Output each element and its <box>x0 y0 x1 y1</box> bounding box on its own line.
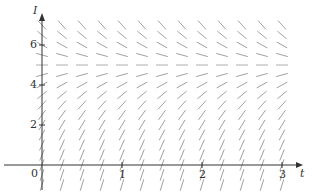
slope-segment <box>118 110 125 120</box>
slope-segment <box>97 31 106 39</box>
origin-label: 0 <box>31 168 38 179</box>
slope-segment <box>220 179 223 190</box>
slope-segment <box>60 169 64 180</box>
slope-segment <box>156 73 168 76</box>
slope-segment <box>97 82 108 88</box>
slope-segment <box>119 130 125 141</box>
axes <box>4 13 303 190</box>
slope-segment <box>177 91 186 99</box>
slope-segment <box>100 179 103 190</box>
slope-segment <box>197 91 206 99</box>
slope-segment <box>160 149 165 160</box>
slope-segment <box>157 31 166 39</box>
slope-segment <box>180 149 185 160</box>
slope-segment <box>159 120 165 130</box>
slope-segment <box>177 82 188 88</box>
slope-segment <box>277 42 288 48</box>
slope-segment <box>197 31 206 39</box>
slope-segment <box>178 21 186 30</box>
slope-segment <box>156 53 168 56</box>
slope-segment <box>60 140 65 151</box>
slope-segment <box>140 149 145 160</box>
slope-segment <box>77 42 88 48</box>
slope-segment <box>80 179 83 190</box>
slope-segment <box>116 53 128 56</box>
x-tick-label-3: 3 <box>279 169 286 180</box>
slope-segment <box>280 149 285 160</box>
slope-segment <box>199 120 205 130</box>
slope-segment <box>218 101 226 110</box>
slope-segment <box>260 140 265 151</box>
slope-segment <box>238 21 246 30</box>
slope-segment <box>160 140 165 151</box>
y-tick-label-6: 6 <box>30 39 37 50</box>
slope-segment <box>218 110 225 120</box>
slope-segment <box>279 130 285 141</box>
slope-segment <box>159 130 165 141</box>
slope-segment <box>98 21 106 30</box>
slope-segment <box>239 120 245 130</box>
slope-segment <box>199 130 205 141</box>
slope-segment <box>117 31 126 39</box>
slope-segment <box>58 110 65 120</box>
slope-segment <box>76 73 88 76</box>
slope-segment <box>117 82 128 88</box>
slope-segment <box>58 21 66 30</box>
slope-segment <box>276 53 288 56</box>
slope-segment <box>257 31 266 39</box>
slope-segment <box>77 82 88 88</box>
x-axis-label: t <box>300 168 304 179</box>
slope-segment <box>140 169 144 180</box>
slope-segment <box>136 53 148 56</box>
slope-segment <box>158 101 166 110</box>
slope-segment <box>237 91 246 99</box>
slope-segment <box>136 73 148 76</box>
slope-segment <box>220 140 225 151</box>
slope-segment <box>218 21 226 30</box>
slope-segment <box>96 73 108 76</box>
slope-segment <box>57 31 66 39</box>
slope-segment <box>118 101 126 110</box>
slope-segment <box>258 110 265 120</box>
slope-segment <box>160 169 164 180</box>
slope-segment <box>198 21 206 30</box>
slope-segment <box>99 120 105 130</box>
slope-segment <box>177 31 186 39</box>
slope-segment <box>259 120 265 130</box>
slope-segment <box>198 101 206 110</box>
slope-segment <box>56 73 68 76</box>
slope-segment <box>117 42 128 48</box>
slope-segment <box>197 42 208 48</box>
slope-segment <box>138 101 146 110</box>
slope-segment <box>237 82 248 88</box>
slope-segment <box>236 73 248 76</box>
y-tick-label-2: 2 <box>30 119 37 130</box>
slope-segment <box>238 110 245 120</box>
slope-segment <box>260 179 263 190</box>
slope-segment <box>260 169 264 180</box>
slope-segment <box>176 73 188 76</box>
slope-segment <box>80 149 85 160</box>
y-axis-label: I <box>33 5 37 16</box>
slope-segment <box>236 53 248 56</box>
slope-segment <box>278 21 286 30</box>
slope-segment <box>100 149 105 160</box>
slope-segment <box>277 82 288 88</box>
slope-segment <box>259 130 265 141</box>
slope-segment <box>137 42 148 48</box>
slope-segment <box>80 140 85 151</box>
slope-segment <box>58 101 66 110</box>
slope-segment <box>240 179 243 190</box>
slope-segment <box>140 179 143 190</box>
slope-segment <box>78 21 86 30</box>
slope-segment <box>239 130 245 141</box>
slope-segment <box>116 73 128 76</box>
slope-segment <box>59 120 65 130</box>
slope-segment <box>97 42 108 48</box>
slope-segment <box>256 73 268 76</box>
slope-segment <box>257 42 268 48</box>
slope-segment <box>180 179 183 190</box>
slope-segment <box>220 149 225 160</box>
slope-segment <box>79 120 85 130</box>
slope-segment <box>60 179 63 190</box>
